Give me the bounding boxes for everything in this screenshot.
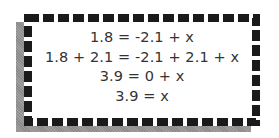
equation-line-3: 3.9 = 0 + x: [24, 67, 260, 87]
equation-steps: 1.8 = -2.1 + x 1.8 + 2.1 = -2.1 + 2.1 + …: [24, 28, 260, 106]
equation-line-4: 3.9 = x: [24, 87, 260, 107]
equation-line-1: 1.8 = -2.1 + x: [24, 28, 260, 48]
equation-line-2: 1.8 + 2.1 = -2.1 + 2.1 + x: [24, 48, 260, 68]
equation-card: 1.8 = -2.1 + x 1.8 + 2.1 = -2.1 + 2.1 + …: [24, 14, 260, 126]
